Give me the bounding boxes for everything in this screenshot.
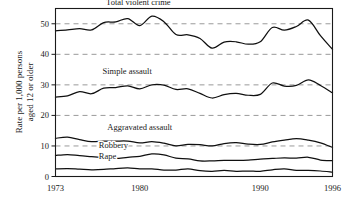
x-tick-label-1980: 1980 [131,183,148,193]
series-label-simple-assault: Simple assault [102,66,152,76]
violent-crime-rate-chart: 010203040501973198019901996Total violent… [0,0,348,202]
series-label-aggravated-assault: Aggravated assault [107,122,173,132]
y-tick-label-20: 20 [41,110,50,120]
y-axis-title-line2: aged 12 or older [25,63,35,122]
series-label-total-violent-crime: Total violent crime [106,0,171,7]
y-tick-label-40: 40 [41,49,50,59]
y-tick-label-30: 30 [41,80,50,90]
y-axis-title: Rate per 1,000 personsaged 12 or older [14,50,35,133]
y-tick-label-0: 0 [45,172,49,182]
plot-frame [56,9,333,177]
series-label-robbery: Robbery [99,140,129,150]
y-tick-label-50: 50 [41,19,50,29]
chart-canvas: 010203040501973198019901996Total violent… [0,0,348,202]
series-line-simple-assault [56,80,333,98]
series-line-total-violent-crime [56,16,333,49]
x-tick-label-1990: 1990 [252,183,269,193]
y-axis-title-line1: Rate per 1,000 persons [14,50,24,133]
series-line-robbery [56,154,333,161]
x-tick-label-1996: 1996 [324,183,341,193]
series-line-rape [56,168,333,172]
series-label-rape: Rape [99,151,117,161]
x-tick-label-1973: 1973 [47,183,64,193]
y-tick-label-10: 10 [41,141,50,151]
